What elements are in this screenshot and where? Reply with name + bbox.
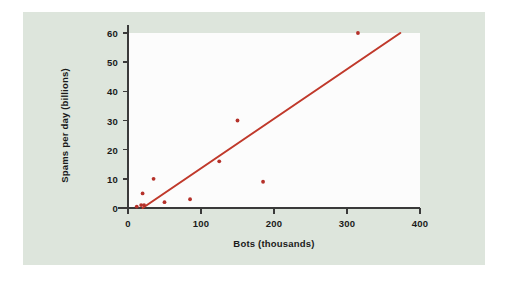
scatter-data-point: 22, 1 xyxy=(142,203,146,207)
scatter-data-point: 12, 0.5 xyxy=(135,205,139,209)
scatter-data-point: 150, 30 xyxy=(236,119,240,123)
x-axis-tick-label: 100 xyxy=(193,218,209,229)
scatter-data-point: 85, 3 xyxy=(188,197,192,201)
y-axis-tick-label: 0 xyxy=(88,203,118,214)
y-axis-tick-label: 60 xyxy=(88,28,118,39)
scatter-data-point: 315, 60 xyxy=(356,31,360,35)
y-axis-tick-label: 50 xyxy=(88,57,118,68)
x-axis-title: Bots (thousands) xyxy=(233,238,314,249)
data-points-group: 12, 0.518, 120, 522, 135, 1050, 285, 312… xyxy=(135,31,360,208)
y-axis-tick-label: 30 xyxy=(88,115,118,126)
axes-group xyxy=(118,25,420,214)
scatter-data-point: 185, 9 xyxy=(261,180,265,184)
chart-figure: 12, 0.518, 120, 522, 135, 1050, 285, 312… xyxy=(0,0,508,281)
y-axis-tick-label: 40 xyxy=(88,86,118,97)
x-axis-tick-label: 0 xyxy=(125,218,130,229)
x-axis-tick-label: 200 xyxy=(266,218,282,229)
scatter-data-point: 50, 2 xyxy=(163,200,167,204)
scatter-data-point: 125, 16 xyxy=(217,159,221,163)
scatter-data-point: 35, 10 xyxy=(152,177,156,181)
x-axis-tick-label: 400 xyxy=(412,218,428,229)
x-axis-tick-label: 300 xyxy=(339,218,355,229)
regression-trendline xyxy=(143,33,401,208)
y-axis-title: Spams per day (billions) xyxy=(59,68,70,183)
y-axis-tick-label: 10 xyxy=(88,173,118,184)
scatter-data-point: 20, 5 xyxy=(141,192,145,196)
trendline-group xyxy=(143,33,401,208)
y-axis-tick-label: 20 xyxy=(88,144,118,155)
